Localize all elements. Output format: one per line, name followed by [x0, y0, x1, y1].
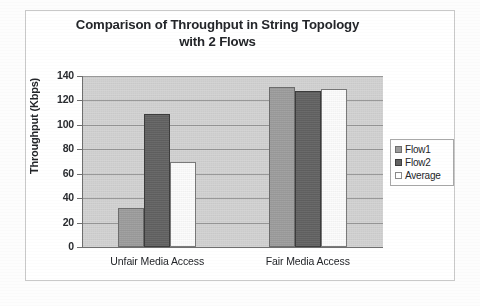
legend-item-flow2: Flow2	[395, 156, 450, 169]
y-axis-tick-label: 0	[28, 240, 74, 252]
bar-flow1-1	[269, 87, 295, 247]
legend-item-flow1: Flow1	[395, 143, 450, 156]
x-axis-category-label: Unfair Media Access	[82, 255, 233, 267]
y-axis-tick-label: 80	[28, 142, 74, 154]
chart-figure: Comparison of Throughput in String Topol…	[0, 0, 480, 306]
y-axis-tick-label: 20	[28, 216, 74, 228]
chart-title-line-1: Comparison of Throughput in String Topol…	[45, 16, 390, 33]
bar-average-0	[170, 162, 196, 248]
gridline	[82, 76, 383, 77]
chart-title: Comparison of Throughput in String Topol…	[45, 16, 390, 51]
chart-title-line-2: with 2 Flows	[45, 33, 390, 50]
legend-swatch-icon	[395, 146, 402, 153]
legend-label: Average	[405, 170, 441, 181]
legend-swatch-icon	[395, 159, 402, 166]
bar-flow2-1	[295, 91, 321, 247]
y-axis-tick-label: 40	[28, 191, 74, 203]
bar-flow1-0	[118, 208, 144, 247]
y-axis-tick-label: 100	[28, 118, 74, 130]
legend-label: Flow2	[405, 157, 431, 168]
legend-item-average: Average	[395, 169, 450, 182]
x-axis-category-label: Fair Media Access	[233, 255, 384, 267]
y-axis-tick-label: 120	[28, 93, 74, 105]
y-axis-tick-label: 140	[28, 69, 74, 81]
chart-legend: Flow1Flow2Average	[390, 139, 454, 186]
bar-flow2-0	[144, 114, 170, 247]
plot-area	[82, 76, 383, 247]
legend-label: Flow1	[405, 144, 431, 155]
legend-swatch-icon	[395, 172, 402, 179]
bar-average-1	[321, 89, 347, 247]
y-axis-line	[82, 76, 83, 248]
x-axis-line	[82, 247, 383, 248]
y-axis-tick-label: 60	[28, 167, 74, 179]
